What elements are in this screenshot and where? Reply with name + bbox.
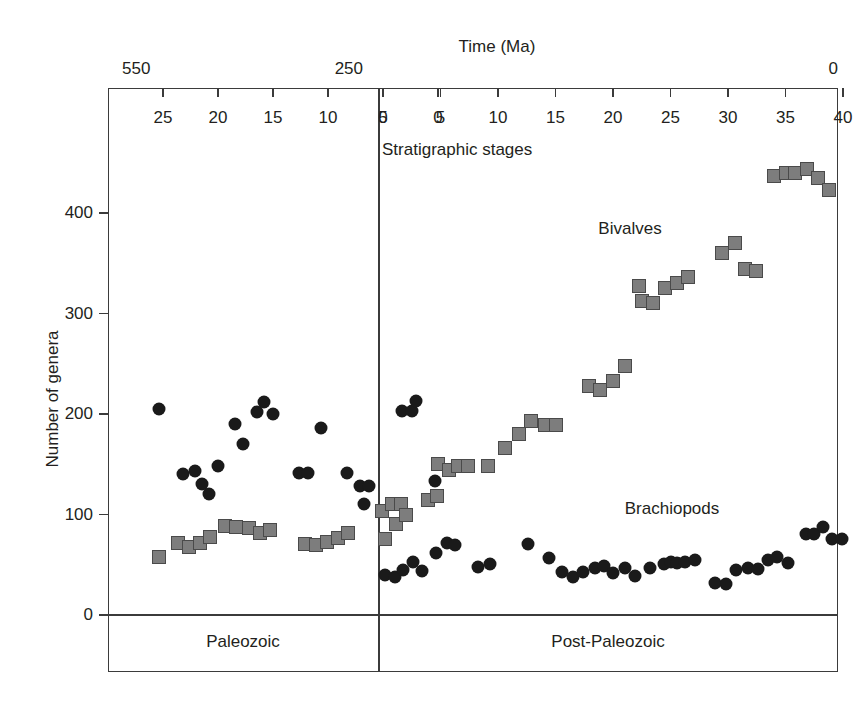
bivalve-data-point [749, 264, 763, 278]
x-tick-label: 20 [604, 108, 623, 128]
x-tick-mark [497, 88, 498, 97]
bivalve-data-point [681, 270, 695, 284]
y-axis-label: Number of genera [43, 299, 63, 499]
bivalve-data-point [606, 374, 620, 388]
x-tick-mark [785, 88, 786, 97]
y-tick-mark [99, 413, 108, 414]
y-tick-mark [99, 614, 108, 615]
x-tick-mark [612, 88, 613, 97]
x-tick-label: 10 [489, 108, 508, 128]
bivalve-data-point [263, 523, 277, 537]
brachiopod-data-point [521, 537, 534, 550]
stratigraphic-stages-label: Stratigraphic stages [382, 141, 532, 158]
y-tick-mark [99, 313, 108, 314]
x-tick-mark [162, 88, 163, 97]
brachiopod-data-point [835, 532, 848, 545]
brachiopod-data-point [188, 465, 201, 478]
x-tick-mark [555, 88, 556, 97]
x-tick-mark [440, 88, 441, 97]
x-tick-mark [842, 88, 843, 97]
bivalve-data-point [341, 526, 355, 540]
brachiopod-data-point [315, 422, 328, 435]
brachiopod-data-point [542, 551, 555, 564]
y-tick-label: 0 [84, 605, 93, 625]
brachiopod-data-point [228, 418, 241, 431]
brachiopod-data-point [410, 394, 423, 407]
bivalve-data-point [728, 236, 742, 250]
brachiopod-data-point [817, 520, 830, 533]
bivalve-data-point [481, 459, 495, 473]
y-tick-mark [99, 514, 108, 515]
brachiopod-data-point [483, 557, 496, 570]
y-tick-label: 400 [65, 203, 93, 223]
bivalve-data-point [524, 414, 538, 428]
brachiopod-data-point [416, 564, 429, 577]
bivalve-data-point [646, 296, 660, 310]
x-tick-mark [327, 88, 328, 97]
bivalve-data-point [512, 427, 526, 441]
x-tick-label: 20 [209, 108, 228, 128]
x-tick-label: 35 [776, 108, 795, 128]
x-tick-mark [217, 88, 218, 97]
brachiopod-data-point [302, 467, 315, 480]
y-tick-mark [99, 212, 108, 213]
x-tick-label: 25 [661, 108, 680, 128]
time-axis-right-label: 0 [829, 60, 838, 77]
brachiopod-data-point [428, 475, 441, 488]
bivalve-data-point [822, 183, 836, 197]
brachiopods-series-annotation: Brachiopods [625, 500, 720, 517]
x-tick-mark [437, 88, 438, 97]
brachiopod-data-point [152, 402, 165, 415]
panel-divider [378, 88, 380, 672]
brachiopod-data-point [449, 538, 462, 551]
brachiopod-data-point [267, 408, 280, 421]
x-tick-label: 15 [264, 108, 283, 128]
x-tick-label: 30 [719, 108, 738, 128]
brachiopod-data-point [751, 562, 764, 575]
bivalve-data-point [632, 279, 646, 293]
brachiopod-data-point [688, 553, 701, 566]
brachiopod-data-point [176, 468, 189, 481]
brachiopod-data-point [643, 561, 656, 574]
brachiopod-data-point [362, 480, 375, 493]
bivalve-data-point [618, 359, 632, 373]
brachiopod-data-point [429, 546, 442, 559]
brachiopod-data-point [237, 438, 250, 451]
post-paleozoic-band-label: Post-Paleozoic [551, 633, 664, 650]
bivalve-data-point [430, 489, 444, 503]
y-tick-label: 300 [65, 304, 93, 324]
y-tick-label: 200 [65, 404, 93, 424]
chart-title: Time (Ma) [459, 38, 536, 55]
time-axis-left-label: 550 [122, 60, 150, 77]
brachiopod-data-point [258, 395, 271, 408]
brachiopod-data-point [628, 569, 641, 582]
x-tick-mark [727, 88, 728, 97]
figure-container: Time (Ma) 550 250 0 Number of genera 010… [0, 0, 864, 714]
bivalves-series-annotation: Bivalves [598, 220, 661, 237]
time-axis-middle-label: 250 [335, 60, 363, 77]
x-tick-label: 10 [319, 108, 338, 128]
plot-area [108, 88, 838, 615]
bivalve-data-point [461, 459, 475, 473]
x-tick-label: 15 [546, 108, 565, 128]
bivalve-data-point [549, 418, 563, 432]
x-tick-mark [272, 88, 273, 97]
bivalve-data-point [152, 550, 166, 564]
x-tick-label: 25 [154, 108, 173, 128]
x-tick-label: 5 [436, 108, 445, 128]
brachiopod-data-point [719, 577, 732, 590]
brachiopod-data-point [781, 556, 794, 569]
paleozoic-band-label: Paleozoic [206, 633, 280, 650]
bivalve-data-point [229, 520, 243, 534]
bivalve-data-point [498, 441, 512, 455]
x-tick-mark [670, 88, 671, 97]
bivalve-data-point [378, 532, 392, 546]
bivalve-data-point [399, 508, 413, 522]
brachiopod-data-point [340, 467, 353, 480]
y-tick-label: 100 [65, 505, 93, 525]
brachiopod-data-point [358, 498, 371, 511]
x-tick-label: 40 [834, 108, 853, 128]
x-tick-mark [382, 88, 383, 97]
brachiopod-data-point [203, 488, 216, 501]
brachiopod-data-point [212, 460, 225, 473]
